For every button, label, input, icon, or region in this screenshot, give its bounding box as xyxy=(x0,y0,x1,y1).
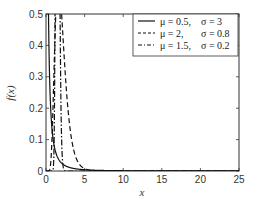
x-tick-label: 5 xyxy=(82,174,88,185)
legend-mu-label: μ = 1.5, xyxy=(160,40,191,51)
x-axis-label: x xyxy=(139,186,145,198)
legend-sigma-label: σ = 3 xyxy=(201,16,222,27)
y-tick-label: 0.4 xyxy=(29,40,43,51)
legend-mu-label: μ = 0.5, xyxy=(160,16,191,27)
y-axis-label: f(x) xyxy=(4,85,17,101)
legend: μ = 0.5,σ = 3μ = 2,σ = 0.8μ = 1.5,σ = 0.… xyxy=(133,14,238,56)
lognormal-pdf-chart: 051015202500.10.20.30.40.5 x f(x) μ = 0.… xyxy=(0,0,257,207)
x-tick-label: 15 xyxy=(156,174,168,185)
y-tick-label: 0.5 xyxy=(29,9,43,20)
x-tick-label: 20 xyxy=(195,174,207,185)
y-tick-label: 0.1 xyxy=(29,134,43,145)
legend-sigma-label: σ = 0.8 xyxy=(201,28,230,39)
legend-mu-label: μ = 2, xyxy=(160,28,184,39)
y-tick-label: 0.2 xyxy=(29,103,43,114)
y-tick-label: 0 xyxy=(37,166,43,177)
x-tick-label: 0 xyxy=(43,174,49,185)
x-tick-label: 25 xyxy=(233,174,245,185)
legend-sigma-label: σ = 0.2 xyxy=(201,40,230,51)
y-tick-label: 0.3 xyxy=(29,71,43,82)
x-tick-label: 10 xyxy=(118,174,130,185)
